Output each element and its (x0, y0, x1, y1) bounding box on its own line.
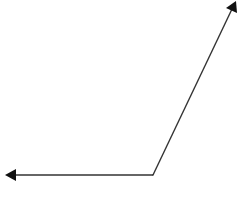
angle-diagram (0, 0, 247, 201)
ray-up-right (153, 1, 237, 175)
ray-left (5, 169, 153, 181)
arrowhead-left-icon (5, 169, 16, 181)
vertex-point (152, 174, 153, 175)
